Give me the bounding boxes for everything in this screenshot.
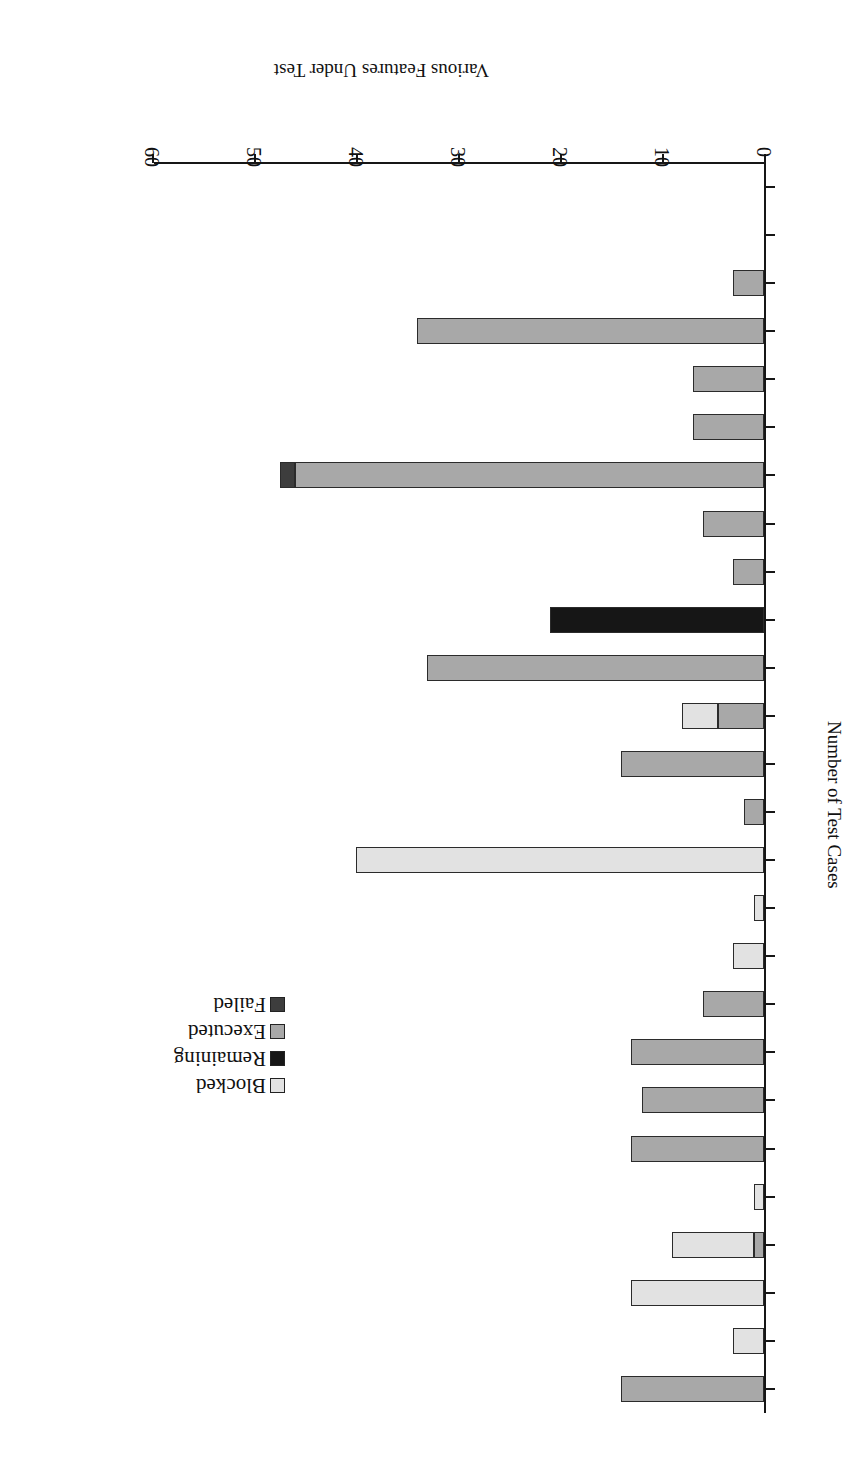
category-tick (766, 619, 775, 621)
bar-row (152, 1136, 764, 1162)
legend-swatch-executed-icon (270, 1024, 285, 1039)
bar-segment-blocked (672, 1232, 754, 1258)
legend-swatch-blocked-icon (270, 1078, 285, 1093)
category-tick (766, 763, 775, 765)
bar-row (152, 1376, 764, 1402)
category-tick (766, 1340, 775, 1342)
bar-segment-executed (427, 655, 764, 681)
category-tick (766, 1148, 775, 1150)
legend-label: Blocked (196, 1075, 266, 1096)
bar-segment-executed (295, 463, 764, 489)
bar-row (152, 943, 764, 969)
category-tick (766, 330, 775, 332)
bar-segment-executed (631, 1039, 764, 1065)
bar-segment-executed (718, 703, 764, 729)
bar-segment-blocked (682, 703, 718, 729)
bar-row (152, 366, 764, 392)
bar-segment-blocked (754, 895, 764, 921)
legend-swatch-failed-icon (270, 997, 285, 1012)
bar-row (152, 895, 764, 921)
category-tick (766, 475, 775, 477)
bar-segment-executed (733, 559, 764, 585)
bar-row (152, 463, 764, 489)
bar-row (152, 511, 764, 537)
bar-segment-executed (744, 799, 764, 825)
bar-segment-blocked (733, 943, 764, 969)
category-tick (766, 1196, 775, 1198)
bar-row (152, 751, 764, 777)
chart-legend: BlockedRemainingExecutedFailed (174, 988, 285, 1096)
bar-row (152, 559, 764, 585)
bar-segment-blocked (733, 1328, 764, 1354)
category-tick (766, 1292, 775, 1294)
category-axis-line (764, 163, 766, 1413)
category-tick (766, 426, 775, 428)
bar-row (152, 1232, 764, 1258)
legend-item-failed: Failed (174, 994, 285, 1015)
bar-segment-executed (703, 991, 764, 1017)
category-tick (766, 811, 775, 813)
bar-segment-blocked (754, 1184, 764, 1210)
legend-label: Remaining (174, 1048, 266, 1069)
bar-segment-executed (703, 511, 764, 537)
plot-area (154, 163, 766, 1413)
bar-segment-executed (417, 318, 764, 344)
bar-row (152, 318, 764, 344)
bar-segment-executed (754, 1232, 764, 1258)
bar-segment-blocked (356, 847, 764, 873)
category-tick (766, 1003, 775, 1005)
y-axis-title: Number of Test Cases (823, 721, 845, 889)
category-tick (766, 378, 775, 380)
bar-row (152, 847, 764, 873)
category-tick (766, 186, 775, 188)
bar-segment-executed (642, 1088, 764, 1114)
bar-segment-executed (693, 366, 764, 392)
category-tick (766, 859, 775, 861)
bar-row (152, 1280, 764, 1306)
bar-segment-executed (631, 1136, 764, 1162)
category-tick (766, 1388, 775, 1390)
category-tick (766, 523, 775, 525)
bar-row (152, 1328, 764, 1354)
legend-item-remaining: Remaining (174, 1048, 285, 1069)
category-tick (766, 955, 775, 957)
value-tick-label: 0 (752, 147, 775, 157)
category-tick (766, 715, 775, 717)
category-tick (766, 1100, 775, 1102)
bar-row (152, 799, 764, 825)
legend-label: Failed (214, 994, 267, 1015)
bar-segment-executed (621, 1376, 764, 1402)
value-tick-label: 40 (344, 147, 367, 167)
bar-segment-failed (280, 463, 295, 489)
legend-item-executed: Executed (174, 1021, 285, 1042)
value-tick-label: 20 (548, 147, 571, 167)
legend-item-blocked: Blocked (174, 1075, 285, 1096)
bar-segment-blocked (631, 1280, 764, 1306)
legend-label: Executed (188, 1021, 266, 1042)
bar-row (152, 703, 764, 729)
category-tick (766, 234, 775, 236)
bar-row (152, 270, 764, 296)
value-tick-label: 60 (140, 147, 163, 167)
value-tick-label: 10 (650, 147, 673, 167)
value-tick-label: 50 (242, 147, 265, 167)
bar-row (152, 414, 764, 440)
category-tick (766, 571, 775, 573)
legend-swatch-remaining-icon (270, 1051, 285, 1066)
category-tick (766, 667, 775, 669)
bar-segment-executed (733, 270, 764, 296)
category-tick (766, 1051, 775, 1053)
bar-row (152, 655, 764, 681)
bar-segment-executed (693, 414, 764, 440)
category-tick (766, 907, 775, 909)
bar-segment-executed (621, 751, 764, 777)
x-axis-title: Various Features Under Test (274, 59, 489, 81)
category-tick (766, 282, 775, 284)
bar-row (152, 607, 764, 633)
bar-segment-remaining (550, 607, 764, 633)
bar-row (152, 1184, 764, 1210)
category-tick (766, 1244, 775, 1246)
value-tick-label: 30 (446, 147, 469, 167)
